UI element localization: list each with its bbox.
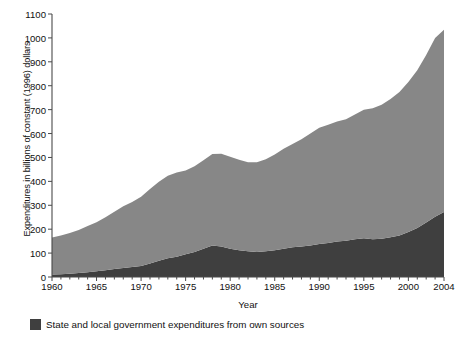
legend-swatch-state-local — [30, 319, 41, 330]
stacked-area-layers — [52, 30, 444, 277]
x-tick-label: 1965 — [86, 281, 107, 292]
chart-figure: Expenditures in billions of constant (19… — [0, 0, 456, 340]
area-series — [52, 30, 444, 275]
x-tick-label: 1975 — [175, 281, 196, 292]
x-tick-label: 1990 — [309, 281, 330, 292]
chart-legend: State and local government expenditures … — [30, 319, 304, 330]
legend-label-state-local: State and local government expenditures … — [46, 319, 304, 330]
x-tick-label: 1960 — [41, 281, 62, 292]
x-tick-label: 1970 — [130, 281, 151, 292]
x-tick-label: 1980 — [220, 281, 241, 292]
x-tick-label: 1985 — [264, 281, 285, 292]
x-tick-label: 2004 — [433, 281, 454, 292]
x-axis-title: Year — [52, 299, 444, 310]
x-tick-label: 2000 — [398, 281, 419, 292]
x-tick-label: 1995 — [353, 281, 374, 292]
